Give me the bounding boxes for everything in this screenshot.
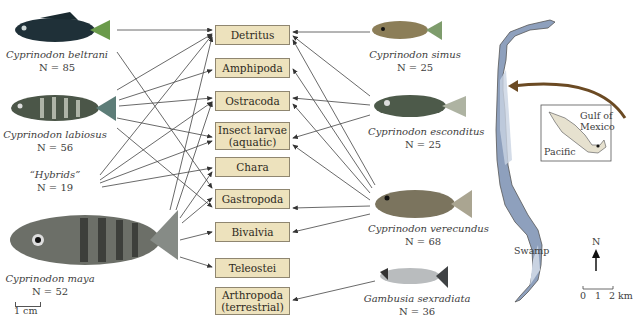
north-label: N (592, 236, 600, 247)
inset-label-gulf: Gulf of Mexico (580, 110, 615, 132)
map-scale-bar (583, 286, 613, 289)
map-scale-tick-1: 1 (595, 290, 601, 301)
swamp-label: Swamp (514, 245, 549, 256)
map-scale-tick-2: 2 km (609, 290, 633, 301)
map-scale-tick-0: 0 (580, 290, 586, 301)
lake-map (0, 0, 641, 319)
inset-label-pacific: Pacific (544, 146, 576, 157)
